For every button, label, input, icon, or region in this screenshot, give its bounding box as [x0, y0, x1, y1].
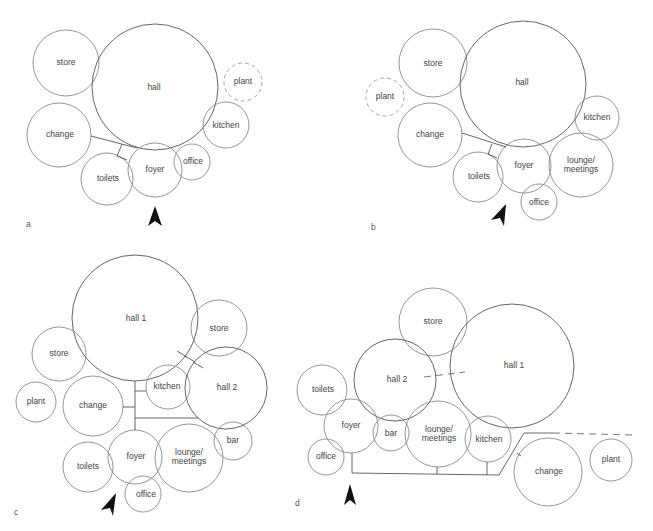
corridor-dashed [553, 433, 634, 435]
label-hall-1: hall 1 [126, 313, 147, 323]
label-bar: bar [227, 435, 239, 445]
label-kitchen: kitchen [476, 434, 503, 444]
entrance-arrow-icon [344, 484, 356, 505]
label-office: office [316, 451, 336, 461]
label-plant: plant [602, 454, 621, 464]
label-foyer: foyer [127, 451, 146, 461]
label-plant: plant [376, 91, 395, 101]
label-toilets: toilets [77, 461, 99, 471]
corridor-line [91, 136, 137, 148]
link-tick [185, 356, 195, 362]
label-foyer: foyer [342, 420, 361, 430]
corridor-line [488, 154, 497, 158]
label-office: office [136, 489, 156, 499]
label-change: change [416, 129, 444, 139]
label-plant: plant [27, 396, 46, 406]
link-dashed [424, 372, 465, 377]
label-change: change [535, 466, 563, 476]
label-change: change [46, 129, 74, 139]
label-store: store [424, 58, 443, 68]
bubble-diagram-figure: store hall plant kitchen change toilets … [0, 0, 653, 531]
label-foyer: foyer [515, 160, 534, 170]
label-toilets: toilets [312, 384, 334, 394]
label-lounge-line2: meetings [564, 164, 599, 174]
label-toilets: toilets [97, 173, 119, 183]
panel-c: hall 1 store store kitchen hall 2 plant … [14, 255, 267, 517]
label-hall: hall [147, 82, 160, 92]
label-store: store [424, 316, 443, 326]
corridor-line [488, 144, 492, 154]
label-plant: plant [234, 76, 253, 86]
label-store: store [57, 57, 76, 67]
corridor-line [117, 156, 127, 160]
label-store-left: store [50, 348, 69, 358]
label-hall-1: hall 1 [504, 360, 525, 370]
label-store-right: store [210, 323, 229, 333]
label-lounge-line2: meetings [422, 433, 457, 443]
entrance-arrow-icon [148, 206, 162, 226]
panel-d: store hall 1 hall 2 toilets foyer bar lo… [295, 288, 634, 508]
label-lounge-line2: meetings [172, 456, 207, 466]
label-office: office [529, 197, 549, 207]
label-change: change [79, 400, 107, 410]
link-tick [193, 362, 203, 368]
panel-label-b: b [371, 222, 376, 232]
label-hall-2: hall 2 [217, 382, 238, 392]
label-bar: bar [385, 428, 397, 438]
entrance-arrow-icon [101, 493, 116, 516]
label-foyer: foyer [146, 164, 165, 174]
panel-label-a: a [26, 219, 31, 229]
label-kitchen: kitchen [213, 120, 240, 130]
panel-b: store hall plant kitchen change toilets … [366, 21, 619, 232]
panel-a: store hall plant kitchen change toilets … [26, 24, 262, 229]
label-hall-2: hall 2 [387, 374, 408, 384]
label-kitchen: kitchen [584, 112, 611, 122]
corridor-line [117, 144, 122, 156]
label-kitchen: kitchen [154, 381, 181, 391]
label-toilets: toilets [468, 171, 490, 181]
panel-label-c: c [14, 507, 19, 517]
entrance-arrow-icon [491, 204, 506, 226]
panel-label-d: d [295, 498, 300, 508]
label-hall: hall [515, 77, 528, 87]
label-office: office [183, 156, 203, 166]
corridor-line [462, 133, 506, 147]
